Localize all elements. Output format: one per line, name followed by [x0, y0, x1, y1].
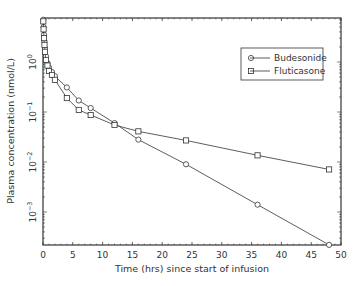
svg-text:10−1: 10−1 — [26, 101, 38, 122]
square-marker-icon — [42, 42, 47, 47]
y-tick-label: 10−3 — [26, 201, 38, 222]
square-marker-icon — [326, 167, 331, 172]
square-marker-icon — [88, 112, 93, 117]
square-marker-icon — [41, 19, 46, 24]
x-tick-label: 25 — [186, 250, 197, 260]
circle-marker-icon — [326, 242, 331, 247]
y-tick-label: 10−2 — [26, 151, 38, 172]
x-tick-label: 50 — [335, 250, 347, 260]
x-tick-label: 20 — [156, 250, 168, 260]
x-axis-label: Time (hrs) since start of infusion — [114, 263, 269, 274]
y-tick-label: 100 — [26, 54, 38, 70]
svg-text:10−3: 10−3 — [26, 201, 38, 222]
tick-labels: 0510152025303540455010010−110−210−3 — [26, 54, 347, 260]
legend-label-budesonide: Budesonide — [274, 53, 327, 63]
pk-chart: 0510152025303540455010010−110−210−3 Time… — [0, 0, 362, 286]
series-line-fluticasone — [43, 21, 329, 169]
circle-marker-icon — [88, 105, 93, 110]
circle-marker-icon — [183, 162, 188, 167]
square-marker-icon — [41, 27, 46, 32]
circle-marker-icon — [136, 137, 141, 142]
square-marker-icon — [64, 95, 69, 100]
square-marker-icon — [41, 36, 46, 41]
circle-marker-icon — [64, 85, 69, 90]
legend-label-fluticasone: Fluticasone — [274, 66, 326, 76]
square-marker-icon — [49, 72, 54, 77]
x-tick-label: 45 — [305, 250, 316, 260]
square-marker-icon — [42, 49, 47, 54]
x-tick-label: 0 — [40, 250, 46, 260]
square-marker-icon — [112, 122, 117, 127]
x-tick-label: 30 — [216, 250, 228, 260]
legend: Budesonide Fluticasone — [241, 48, 327, 80]
x-tick-label: 40 — [276, 250, 288, 260]
square-marker-icon — [76, 107, 81, 112]
circle-marker-icon — [76, 98, 81, 103]
svg-text:100: 100 — [26, 54, 38, 70]
square-marker-icon — [136, 129, 141, 134]
square-marker-icon — [255, 153, 260, 158]
circle-marker-icon — [255, 202, 260, 207]
square-marker-icon — [43, 57, 48, 62]
svg-text:10−2: 10−2 — [26, 151, 38, 172]
square-marker-icon — [183, 138, 188, 143]
x-tick-label: 10 — [97, 250, 109, 260]
x-tick-label: 35 — [246, 250, 257, 260]
square-marker-icon — [52, 77, 57, 82]
x-tick-label: 15 — [127, 250, 138, 260]
y-axis-label: Plasma concentration (nmol/L) — [5, 58, 16, 204]
y-tick-label: 10−1 — [26, 101, 38, 122]
square-marker-icon — [45, 63, 50, 68]
x-tick-label: 5 — [70, 250, 76, 260]
